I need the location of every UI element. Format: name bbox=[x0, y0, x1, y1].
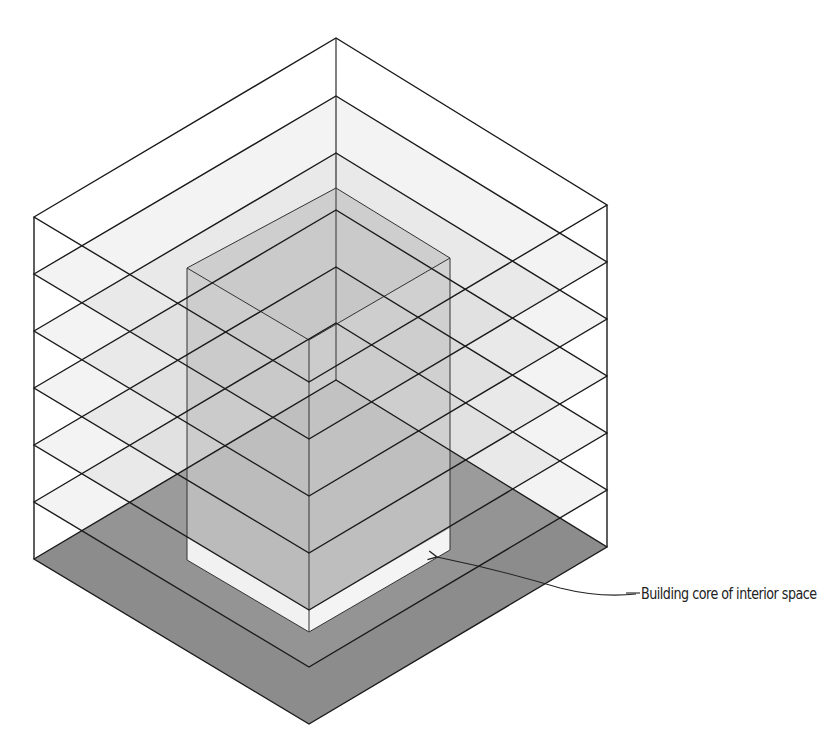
building-core bbox=[187, 188, 450, 632]
callout-label: Building core of interior space bbox=[641, 585, 817, 603]
building-diagram bbox=[0, 0, 837, 748]
